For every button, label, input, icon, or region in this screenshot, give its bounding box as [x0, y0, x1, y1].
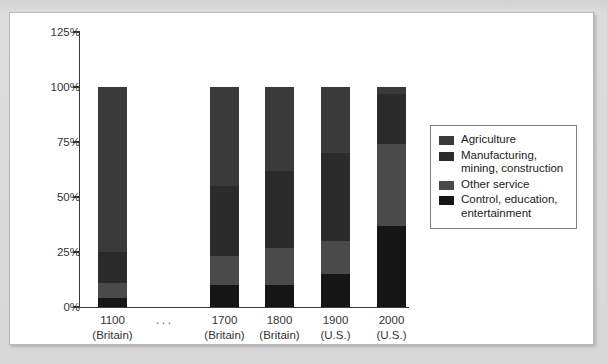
bar-stack	[98, 87, 127, 307]
bar-segment	[377, 226, 406, 307]
bar-segment	[377, 144, 406, 225]
legend-item-label: Manufacturing, mining, construction	[461, 149, 568, 176]
bar-segment	[98, 252, 127, 283]
legend-swatch-icon	[439, 152, 454, 161]
bar-segment	[98, 283, 127, 298]
y-tick-label-wrap: 125%	[10, 26, 80, 38]
x-axis-label-year: 1100	[75, 313, 151, 328]
y-tick-label-wrap: 75%	[10, 136, 80, 148]
y-axis-line	[79, 32, 80, 308]
bar-segment	[210, 186, 239, 256]
x-axis-label-region: (Britain)	[75, 328, 151, 343]
y-tick-label-wrap: 0%	[10, 301, 80, 313]
legend-item-label: Agriculture	[461, 133, 516, 147]
bar-segment	[265, 248, 294, 285]
bar-segment	[321, 274, 350, 307]
bar-segment	[98, 87, 127, 252]
x-axis-line	[79, 307, 409, 308]
x-axis-label: 2000(U.S.)	[354, 313, 430, 342]
bar-segment	[265, 285, 294, 307]
y-tick-label: 50%	[32, 191, 80, 203]
legend-swatch-icon	[439, 136, 454, 145]
y-tick-label-wrap: 50%	[10, 191, 80, 203]
bar-segment	[98, 298, 127, 307]
bar-segment	[210, 285, 239, 307]
y-tick-label-wrap: 100%	[10, 81, 80, 93]
y-tick-label: 25%	[32, 246, 80, 258]
bar-stack	[265, 87, 294, 307]
legend-item: Other service	[439, 178, 568, 192]
axis-break-ellipsis: ...	[156, 313, 174, 327]
y-tick-label: 75%	[32, 136, 80, 148]
bar-segment	[321, 87, 350, 153]
legend-item-label: Other service	[461, 178, 529, 192]
legend-item: Control, education, entertainment	[439, 193, 568, 220]
legend-swatch-icon	[439, 196, 454, 205]
bar-segment	[210, 87, 239, 186]
x-axis-label-region: (U.S.)	[354, 328, 430, 343]
legend-item: Manufacturing, mining, construction	[439, 149, 568, 176]
x-axis-label: 1100(Britain)	[75, 313, 151, 342]
bar-segment	[265, 171, 294, 248]
bar-segment	[210, 256, 239, 285]
y-tick-label: 100%	[32, 81, 80, 93]
legend-swatch-icon	[439, 181, 454, 190]
y-tick-label-wrap: 25%	[10, 246, 80, 258]
bar-segment	[321, 153, 350, 241]
bar-stack	[210, 87, 239, 307]
bar-stack	[377, 87, 406, 307]
legend: AgricultureManufacturing, mining, constr…	[430, 125, 577, 229]
bar-segment	[321, 241, 350, 274]
y-tick-label: 0%	[32, 301, 80, 313]
y-tick-label: 125%	[32, 26, 80, 38]
figure-panel: 125%100%75%50%25%0% 1100(Britain)1700(Br…	[9, 12, 594, 345]
bar-stack	[321, 87, 350, 307]
bar-segment	[377, 94, 406, 145]
plot-area: 125%100%75%50%25%0% 1100(Britain)1700(Br…	[10, 13, 595, 346]
legend-item: Agriculture	[439, 133, 568, 147]
x-axis-label-year: 2000	[354, 313, 430, 328]
legend-item-label: Control, education, entertainment	[461, 193, 568, 220]
bar-segment	[377, 87, 406, 94]
bar-segment	[265, 87, 294, 171]
